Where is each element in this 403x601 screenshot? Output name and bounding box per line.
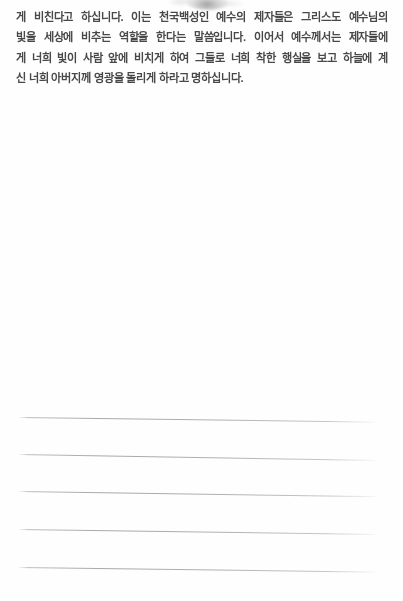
scanned-page: 게 비친다고 하십니다. 이는 천국백성인 예수의 제자들은 그리스도 예수님의… [0, 0, 403, 601]
ruled-line [18, 491, 380, 497]
paragraph-line-3: 게 너희 빛이 사람 앞에 비치게 하여 그들로 너희 착한 행실을 보고 하늘… [16, 48, 388, 68]
paragraph-line-1: 게 비친다고 하십니다. 이는 천국백성인 예수의 제자들은 그리스도 예수님의 [16, 7, 388, 27]
body-paragraph: 게 비친다고 하십니다. 이는 천국백성인 예수의 제자들은 그리스도 예수님의… [16, 7, 388, 88]
ruled-line [18, 454, 380, 461]
ruled-line [18, 417, 380, 423]
ruled-line [18, 529, 380, 535]
scan-smudge-artifact-right [214, 0, 244, 7]
scan-smudge-artifact-left [168, 0, 194, 6]
paragraph-line-4: 신 너희 아버지께 영광을 돌리게 하라고 명하십니다. [16, 68, 388, 88]
ruled-line [18, 567, 380, 573]
paragraph-line-2: 빛을 세상에 비추는 역할을 한다는 말씀입니다. 이어서 예수께서는 제자들에 [16, 27, 388, 47]
